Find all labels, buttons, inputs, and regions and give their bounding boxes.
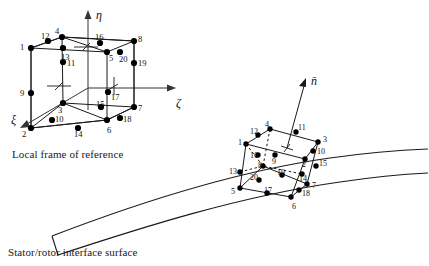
interface-surface-caption: Stator/rotor interface surface <box>8 246 137 258</box>
node-label: 10 <box>55 115 64 124</box>
node-dot <box>315 139 320 144</box>
node-label: 8 <box>138 35 142 44</box>
node-label: 14 <box>74 130 83 139</box>
node-label: 2 <box>302 161 306 169</box>
node-label: 17 <box>111 93 120 102</box>
node-label: 9 <box>20 89 24 98</box>
local-frame-caption: Local frame of reference <box>12 148 123 160</box>
node-dot <box>310 148 315 153</box>
node-label: 12 <box>250 128 258 136</box>
node-label: 17 <box>264 187 272 195</box>
tick-mid-right-slash <box>108 84 118 90</box>
node-label: 8 <box>258 162 262 170</box>
node-label: 20 <box>250 174 258 182</box>
node-label: 12 <box>41 32 50 41</box>
node-dot <box>237 169 242 174</box>
node-label: 4 <box>265 121 269 129</box>
interface-element-wireframe <box>240 129 318 197</box>
node-dot <box>28 125 34 131</box>
normal-origin-slash <box>284 144 290 152</box>
node-dot <box>131 60 137 66</box>
node-label: 1 <box>20 43 24 52</box>
node-label: 14 <box>299 175 307 183</box>
figure-canvas <box>0 0 429 266</box>
node-label: 7 <box>312 182 316 190</box>
node-label: 6 <box>292 203 296 211</box>
node-dot <box>313 163 318 168</box>
node-dot <box>60 45 66 51</box>
zeta-axis-arrow <box>167 85 176 92</box>
node-dot <box>104 117 110 123</box>
node-label: 2 <box>22 130 26 139</box>
node-label: 15 <box>319 160 327 168</box>
zeta-axis-label: ζ <box>176 96 181 111</box>
node-dot <box>296 187 301 192</box>
node-label: 7 <box>138 104 142 113</box>
xi-axis-label: ξ <box>11 113 16 128</box>
surface-edge-top <box>52 149 428 236</box>
node-label: 5 <box>231 188 235 196</box>
node-label: 11 <box>298 124 306 132</box>
normal-vector-head <box>299 78 306 87</box>
node-label: 15 <box>96 100 105 109</box>
node-label: 9 <box>272 158 276 166</box>
node-dot <box>288 194 293 199</box>
node-label: 20 <box>119 55 128 64</box>
node-label: 13 <box>61 53 70 62</box>
node-dot <box>131 104 137 110</box>
node-label: 6 <box>107 126 111 135</box>
node-dot <box>28 90 34 96</box>
node-dot <box>237 185 242 190</box>
normal-vector-line <box>287 86 304 148</box>
normal-vector-label: n̄ <box>311 74 317 89</box>
edge-1-5 <box>240 144 246 188</box>
node-label: 19 <box>138 59 147 68</box>
eta-axis-arrow <box>85 10 92 19</box>
node-label: 3 <box>323 136 327 144</box>
node-label: 5 <box>109 54 113 63</box>
node-label: 13 <box>229 168 237 176</box>
eta-axis-label: η <box>96 8 102 23</box>
interface-surface <box>52 149 428 255</box>
node-label: 10 <box>317 148 325 156</box>
node-label: 4 <box>55 27 59 36</box>
node-label: 16 <box>95 33 104 42</box>
node-dot <box>243 141 248 146</box>
local-axes <box>20 10 176 128</box>
normal-vector-arrow <box>281 78 306 152</box>
edge-4-8 <box>263 129 270 166</box>
node-dot <box>131 38 137 44</box>
node-label: 16 <box>250 152 258 160</box>
node-label: 19 <box>277 169 285 177</box>
node-label: 18 <box>302 190 310 198</box>
node-dot <box>59 34 65 40</box>
node-label: 1 <box>238 139 242 147</box>
node-dot <box>28 45 34 51</box>
node-label: 18 <box>123 115 132 124</box>
